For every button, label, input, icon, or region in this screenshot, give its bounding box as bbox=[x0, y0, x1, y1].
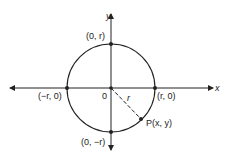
radius-line bbox=[111, 88, 141, 119]
point-top bbox=[109, 42, 113, 46]
point-right bbox=[153, 86, 157, 90]
y-axis-label: y bbox=[105, 11, 111, 21]
label-p: P(x, y) bbox=[146, 118, 172, 128]
point-p bbox=[139, 117, 143, 121]
label-bottom: (0, −r) bbox=[81, 137, 105, 147]
label-left: (−r, 0) bbox=[38, 91, 62, 101]
label-top: (0, r) bbox=[86, 31, 105, 41]
point-bottom bbox=[109, 130, 113, 134]
point-origin bbox=[109, 86, 113, 90]
circle-diagram: y x (0, r) (−r, 0) 0 (r, 0) r P(x, y) (0… bbox=[0, 0, 229, 157]
label-radius: r bbox=[127, 93, 131, 103]
x-axis-label: x bbox=[214, 83, 220, 93]
point-left bbox=[65, 86, 69, 90]
label-origin: 0 bbox=[102, 91, 107, 101]
label-right: (r, 0) bbox=[157, 91, 176, 101]
